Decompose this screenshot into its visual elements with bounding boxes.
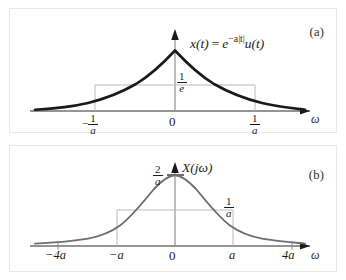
panel-b-signal-label: X(jω) bbox=[182, 160, 213, 176]
panel-b-tick-a-text: a bbox=[229, 248, 235, 262]
panel-a-tick-neg-num: 1 bbox=[88, 113, 98, 124]
panel-b-tick-nega: −a bbox=[109, 248, 124, 263]
panel-a-signal-lhs: x(t) bbox=[190, 36, 209, 51]
panel-a-tick-neg-den: a bbox=[90, 124, 96, 136]
panel-b-tick-neg4a: −4a bbox=[45, 248, 66, 263]
panel-b-tick-zero: 0 bbox=[169, 248, 176, 264]
panel-a-tick-pos-num: 1 bbox=[250, 113, 260, 124]
panel-a-axis-vertical bbox=[171, 29, 179, 111]
panel-a-tick-pos-den: a bbox=[252, 124, 258, 136]
panel-a-signal-equals: = bbox=[209, 36, 223, 51]
panel-b-tag: (b) bbox=[309, 168, 324, 183]
panel-a-signal-exponent: −a|t| bbox=[228, 33, 244, 44]
panel-b-tick-4a: 4a bbox=[282, 248, 295, 263]
panel-b-tick-4a-text: 4a bbox=[282, 248, 295, 262]
panel-a-tick-inv-a: 1 a bbox=[250, 113, 260, 136]
panel-a-level-label: 1 e bbox=[177, 71, 187, 94]
panel-a-signal-label: x(t)=e−a|t|u(t) bbox=[190, 33, 264, 52]
panel-a-axis-label: ω bbox=[311, 112, 319, 127]
panel-b-peak-label: 2 a bbox=[153, 164, 163, 187]
panel-b-axis-label: ω bbox=[311, 248, 319, 263]
panel-b-signal-arg: (jω) bbox=[190, 160, 212, 175]
panel-b-tick-neg4a-text: −4a bbox=[45, 248, 66, 262]
panel-a-level-den: e bbox=[179, 82, 184, 94]
panel-a-signal-factor: u(t) bbox=[245, 36, 265, 51]
panel-b-axis-label-text: ω bbox=[311, 248, 319, 262]
panel-a-tag: (a) bbox=[310, 25, 324, 40]
panel-a-tick-neg-inv-a: − 1 a bbox=[82, 113, 98, 136]
panel-b-tick-nega-text: −a bbox=[109, 248, 124, 262]
panel-b-tick-a: a bbox=[229, 248, 235, 263]
panel-b-level-den: a bbox=[226, 207, 232, 219]
panel-b-level-num: 1 bbox=[224, 196, 234, 207]
panel-a: (a) x(t)=e−a|t|u(t) 1 e − 1 a 0 1 a bbox=[9, 8, 337, 133]
panel-a-axis-label-text: ω bbox=[311, 112, 319, 126]
panel-b-signal-lhs: X bbox=[182, 160, 190, 175]
panel-a-tick-zero: 0 bbox=[169, 114, 176, 130]
panel-b-level-label: 1 a bbox=[224, 196, 234, 219]
figure-container: (a) x(t)=e−a|t|u(t) 1 e − 1 a 0 1 a bbox=[0, 0, 346, 280]
panel-a-level-num: 1 bbox=[177, 71, 187, 82]
panel-b-peak-num: 2 bbox=[153, 164, 163, 175]
panel-a-curve bbox=[35, 51, 305, 110]
panel-b-peak-den: a bbox=[155, 175, 161, 187]
panel-b: (b) X(jω) 2 a 1 a −4a −a 0 a 4a ω bbox=[9, 145, 337, 272]
panel-b-curve bbox=[35, 175, 305, 243]
